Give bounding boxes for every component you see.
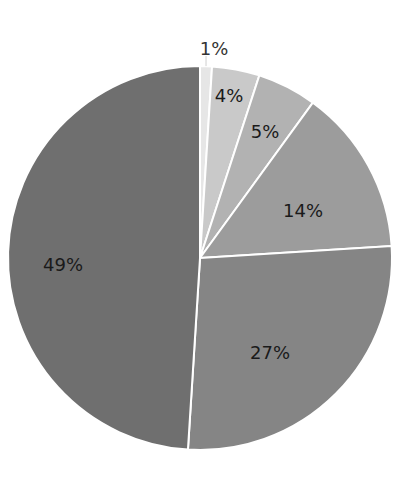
slice-label-4: 14%: [283, 200, 323, 221]
pie-slice-6: [8, 66, 200, 450]
slice-label-3: 5%: [251, 121, 280, 142]
slice-label-5: 27%: [250, 342, 290, 363]
slice-label-1: 1%: [200, 38, 229, 59]
pie-chart: 1%4%5%14%27%49%: [0, 0, 410, 486]
slice-label-6: 49%: [43, 254, 83, 275]
slice-label-2: 4%: [215, 85, 244, 106]
